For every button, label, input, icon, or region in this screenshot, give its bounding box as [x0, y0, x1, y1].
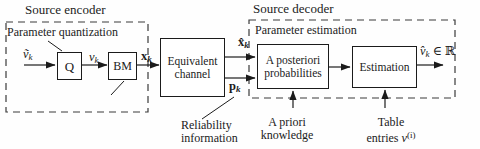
- pointer-bit-mapping: [111, 81, 124, 95]
- apriori-line2: knowledge: [255, 129, 319, 142]
- bit-mapping-box-label: BM: [113, 60, 132, 73]
- quantizer-box: Q: [57, 52, 82, 80]
- channel-label-line2: channel: [175, 68, 211, 81]
- block-diagram: Source encoder Source decoder Parameter …: [0, 0, 480, 149]
- table-line2: entries v(i): [354, 129, 428, 145]
- reliability-line2: information: [181, 132, 238, 145]
- bit-mapping-box: BM: [108, 52, 137, 80]
- quantizer-box-label: Q: [65, 60, 74, 73]
- pointer-reliability: [202, 97, 234, 119]
- signal-output-vhat-k: v̂k ∈ ℝ: [420, 45, 455, 61]
- estimation-box: Estimation: [352, 46, 417, 88]
- decoder-title: Source decoder: [253, 2, 334, 15]
- signal-reliability-p-k: pk: [229, 80, 240, 96]
- reliability-information-label: Reliability information: [181, 119, 238, 145]
- signal-bits-x-k: xk: [141, 50, 152, 66]
- table-entries-label: Table entries v(i): [354, 116, 428, 145]
- signal-received-xhat-k: x̂k: [238, 36, 249, 52]
- pointer-parameter-quantization: [48, 41, 62, 51]
- equivalent-channel-box: Equivalent channel: [160, 38, 225, 97]
- encoder-title: Source encoder: [25, 3, 106, 16]
- a-priori-knowledge-label: A priori knowledge: [255, 116, 319, 142]
- signal-input-vtilde-k: ṽk: [23, 48, 33, 64]
- channel-label-line1: Equivalent: [168, 55, 218, 68]
- signal-quantized-v-k: vk: [89, 51, 99, 67]
- estimation-box-label: Estimation: [360, 61, 410, 74]
- a-posteriori-box: A posteriori probabilities: [257, 44, 329, 89]
- apost-label-line1: A posteriori: [266, 54, 321, 67]
- table-line1: Table: [354, 116, 428, 129]
- parameter-quantization-label: Parameter quantization: [7, 26, 118, 39]
- apost-label-line2: probabilities: [264, 67, 322, 80]
- parameter-estimation-label: Parameter estimation: [255, 24, 357, 37]
